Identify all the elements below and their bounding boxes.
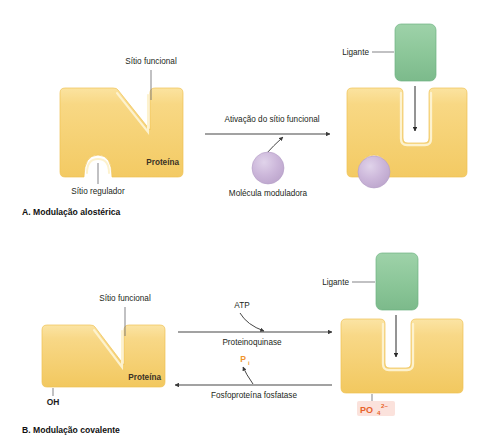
modulator-molecule-icon: [252, 152, 284, 184]
panel-a-protein-active: [347, 88, 467, 188]
panel-b-inorganic-phosphate-subscript: i: [248, 360, 250, 366]
panel-a-modulator-curve-arrow: [266, 137, 283, 154]
panel-b-atp-curve-arrow: [240, 313, 264, 331]
panel-b-kinase-reaction: ATP Proteinoquinase: [178, 301, 332, 347]
ligand-shape: [395, 24, 436, 81]
panel-b-hydroxyl-annotation: OH: [47, 388, 60, 407]
panel-b-atp-label: ATP: [234, 301, 250, 310]
panel-b-phosphate-label: PO: [360, 405, 373, 415]
panel-b: Proteína Sítio funcional OH ATP Proteino…: [22, 253, 463, 435]
panel-b-phosphate-subscript: 4: [377, 409, 381, 416]
panel-a-regulator-site-label: Sítio regulador: [71, 187, 125, 196]
panel-a-reaction-label: Ativação do sítio funcional: [224, 115, 319, 124]
panel-b-hydroxyl-label: OH: [47, 397, 60, 407]
protein-active-notch-highlight: [401, 93, 431, 145]
panel-b-inorganic-phosphate-label: P: [240, 354, 246, 364]
panel-a-modulator-free: Molécula moduladora: [229, 152, 308, 198]
panel-a-functional-site-label: Sítio funcional: [125, 57, 177, 66]
panel-b-phosphate-charge: 2–: [381, 402, 388, 409]
panel-b-phosphatase-reaction: P i Fosfoproteína fosfatase: [175, 354, 332, 400]
protein-modulation-diagram: Proteína Sítio funcional Sítio regulador…: [0, 0, 500, 448]
panel-a-reaction: Ativação do sítio funcional: [205, 115, 330, 154]
panel-b-protein-phospho: PO 4 2–: [341, 319, 463, 416]
panel-b-protein-dephospho: Proteína: [42, 325, 165, 387]
panel-a-caption: A. Modulação alostérica: [22, 207, 121, 217]
panel-a-ligand-label: Ligante: [342, 48, 369, 57]
protein-b-active-notch-highlight: [383, 324, 413, 370]
modulator-molecule-bound-icon: [358, 156, 390, 188]
panel-b-kinase-label: Proteinoquinase: [222, 338, 282, 347]
panel-a: Proteína Sítio funcional Sítio regulador…: [22, 24, 467, 217]
panel-b-phosphatase-label: Fosfoproteína fosfatase: [211, 391, 297, 400]
panel-a-protein-label: Proteína: [146, 158, 179, 167]
panel-b-protein-label: Proteína: [128, 373, 161, 382]
panel-a-modulator-label: Molécula moduladora: [229, 189, 308, 198]
panel-b-functional-site-label: Sítio funcional: [99, 294, 151, 303]
panel-b-pi-curve-arrow: [243, 367, 253, 384]
panel-b-ligand-label: Ligante: [322, 278, 349, 287]
figure-root: Proteína Sítio funcional Sítio regulador…: [0, 0, 500, 448]
panel-b-caption: B. Modulação covalente: [22, 425, 120, 435]
panel-a-protein-inactive: Proteína: [60, 88, 183, 177]
panel-b-ligand-shape: [376, 253, 418, 310]
protein-b-active-body-shape: [341, 319, 463, 393]
